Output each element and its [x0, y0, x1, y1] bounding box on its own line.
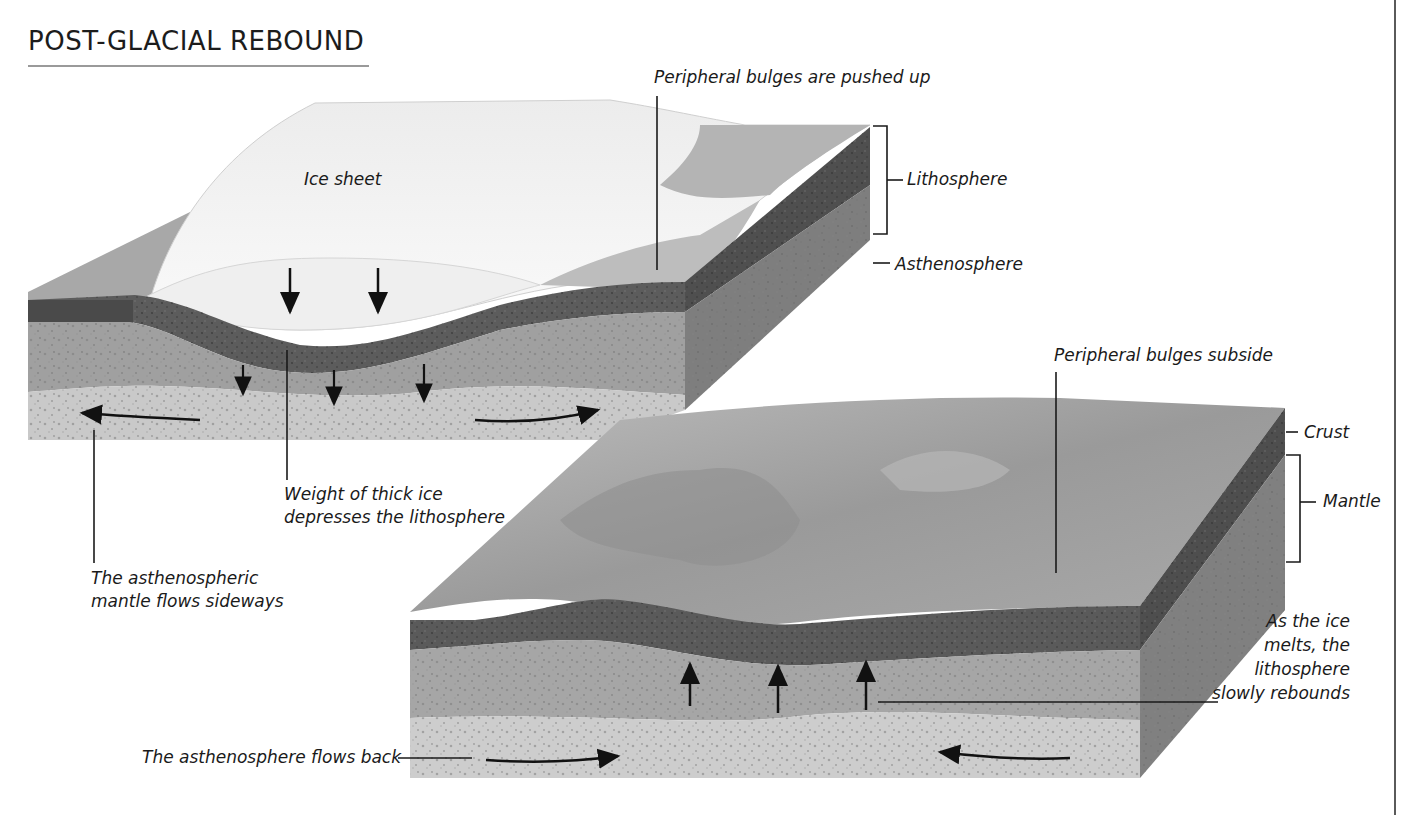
top-block: [28, 100, 870, 440]
label-asthenosphere: Asthenosphere: [895, 253, 1023, 276]
label-weight-line-2: depresses the lithosphere: [284, 506, 505, 529]
label-bulges-pushed-up: Peripheral bulges are pushed up: [654, 66, 930, 89]
label-sideways-line-1: The asthenospheric: [91, 567, 284, 590]
diagram-artwork: [0, 0, 1407, 815]
label-mantle: Mantle: [1323, 490, 1381, 513]
label-lithosphere-rebounds: As the ice melts, the lithosphere slowly…: [1212, 609, 1350, 705]
label-mantle-flows-sideways: The asthenospheric mantle flows sideways: [91, 567, 284, 613]
label-rebound-line-3: lithosphere: [1212, 657, 1350, 681]
label-lithosphere: Lithosphere: [907, 168, 1007, 191]
label-rebound-line-1: As the ice: [1212, 609, 1350, 633]
label-sideways-line-2: mantle flows sideways: [91, 590, 284, 613]
label-rebound-line-2: melts, the: [1212, 633, 1350, 657]
bottom-block: [410, 397, 1285, 778]
label-ice-sheet: Ice sheet: [304, 168, 381, 191]
label-rebound-line-4: slowly rebounds: [1212, 681, 1350, 705]
label-crust: Crust: [1304, 421, 1349, 444]
label-asthenosphere-flows-back: The asthenosphere flows back: [142, 746, 401, 769]
label-weight-line-1: Weight of thick ice: [284, 483, 505, 506]
label-weight-of-ice: Weight of thick ice depresses the lithos…: [284, 483, 505, 529]
label-bulges-subside: Peripheral bulges subside: [1054, 344, 1273, 367]
